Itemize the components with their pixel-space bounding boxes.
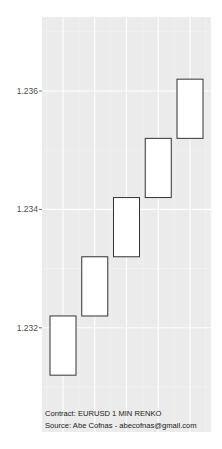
renko-brick [82, 257, 108, 316]
renko-chart: 1.2321.2341.236 Contract: EURUSD 1 MIN R… [0, 0, 222, 449]
caption-contract: Contract: EURUSD 1 MIN RENKO [45, 409, 162, 418]
caption-source: Source: Abe Cofnas - abecofnas@gmail.com [45, 421, 197, 430]
y-tick-label: 1.236 [17, 86, 39, 96]
y-tick-label: 1.232 [17, 323, 39, 333]
renko-brick [50, 316, 76, 375]
renko-brick [114, 198, 140, 257]
y-tick-label: 1.234 [17, 204, 39, 214]
renko-brick [177, 79, 203, 138]
renko-brick [145, 138, 171, 197]
y-axis: 1.2321.2341.236 [17, 86, 42, 333]
